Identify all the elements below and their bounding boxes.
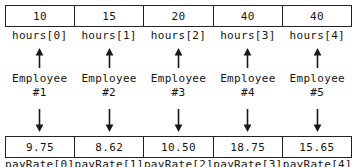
arrow-up-icon (242, 48, 253, 68)
payrate-index-label: payRate[1] (74, 159, 143, 167)
entity-number: #5 (290, 86, 345, 100)
arrow-down-icon (173, 109, 184, 132)
hours-array-row: 10 15 20 40 40 (5, 5, 352, 27)
hours-array-cell: 20 (144, 6, 213, 26)
payrate-index-label: payRate[2] (144, 159, 213, 167)
arrow-up-icon (173, 48, 184, 68)
entity-name: Employee (81, 72, 136, 85)
arrow-down-icon (104, 109, 115, 132)
entity-name: Employee (12, 72, 67, 85)
arrow-down-icon (242, 109, 253, 132)
entity-label: Employee #1 (12, 72, 67, 100)
arrow-down-icon (312, 109, 323, 132)
arrow-up-icon (312, 48, 323, 68)
employee-column: hours[0] Employee #1 (5, 28, 74, 136)
arrow-up-icon (34, 48, 45, 68)
entity-number: #1 (12, 86, 67, 100)
employee-column: hours[3] Employee #4 (213, 28, 282, 136)
arrow-up-icon (104, 48, 115, 68)
hours-index-label: hours[2] (151, 30, 206, 42)
entity-label: Employee #5 (290, 72, 345, 100)
hours-array-cell: 40 (214, 6, 283, 26)
entity-label: Employee #2 (81, 72, 136, 100)
hours-index-label: hours[0] (12, 30, 67, 42)
payrate-array-cell: 9.75 (6, 137, 75, 157)
entity-name: Employee (290, 72, 345, 85)
diagram-canvas: 10 15 20 40 40 hours[0] Employee #1 hour… (0, 0, 361, 167)
entity-number: #3 (151, 86, 206, 100)
payrate-array-cell: 15.65 (283, 137, 351, 157)
entity-number: #4 (220, 86, 275, 100)
payrate-array-cell: 10.50 (144, 137, 213, 157)
hours-array-cell: 10 (6, 6, 75, 26)
payrate-array-cell: 18.75 (214, 137, 283, 157)
hours-array-cell: 15 (75, 6, 144, 26)
payrate-array-row: 9.75 8.62 10.50 18.75 15.65 (5, 136, 352, 158)
payrate-index-label: payRate[3] (213, 159, 282, 167)
hours-array-cell: 40 (283, 6, 351, 26)
payrate-index-label: payRate[0] (5, 159, 74, 167)
entity-number: #2 (81, 86, 136, 100)
employee-column: hours[2] Employee #3 (144, 28, 213, 136)
arrow-down-icon (34, 109, 45, 132)
entity-label: Employee #3 (151, 72, 206, 100)
employee-column: hours[1] Employee #2 (74, 28, 143, 136)
payrate-index-label: payRate[4] (283, 159, 352, 167)
hours-index-label: hours[4] (290, 30, 345, 42)
entity-name: Employee (220, 72, 275, 85)
employee-column: hours[4] Employee #5 (283, 28, 352, 136)
entity-name: Employee (151, 72, 206, 85)
hours-index-label: hours[1] (81, 30, 136, 42)
hours-index-label: hours[3] (220, 30, 275, 42)
payrate-array-cell: 8.62 (75, 137, 144, 157)
entity-label: Employee #4 (220, 72, 275, 100)
payrate-index-label-row: payRate[0] payRate[1] payRate[2] payRate… (5, 159, 352, 167)
